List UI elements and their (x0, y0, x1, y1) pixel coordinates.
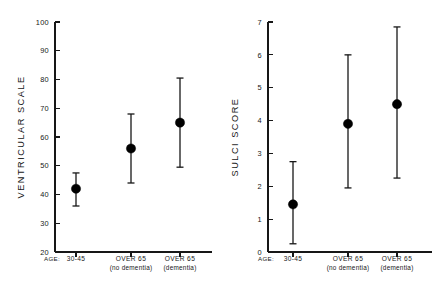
x-axis-category-sublabel: (no dementia) (110, 264, 153, 272)
y-axis-tick-label: 3 (258, 149, 262, 158)
data-point-marker (175, 118, 184, 127)
panel-sulci-score: 01234567SULCI SCOREAGE:30-45OVER 65(no d… (220, 0, 440, 291)
x-axis-age-prefix-label: AGE: (44, 255, 60, 262)
figure-container: 2030405060708090100VENTRICULAR SCALEAGE:… (0, 0, 441, 291)
y-axis-tick-label: 2 (258, 182, 262, 191)
x-axis-category-label: OVER 65 (165, 255, 195, 262)
y-axis-tick-label: 6 (258, 51, 262, 60)
y-axis-title: SULCI SCORE (230, 98, 240, 177)
y-axis-tick-label: 5 (258, 83, 262, 92)
y-axis-tick-label: 40 (40, 190, 49, 199)
sulci-score-plot: 01234567SULCI SCOREAGE:30-45OVER 65(no d… (220, 0, 441, 291)
panel-ventricular-scale: 2030405060708090100VENTRICULAR SCALEAGE:… (0, 0, 220, 291)
y-axis-title: VENTRICULAR SCALE (16, 75, 26, 198)
x-axis-category-label: OVER 65 (333, 255, 363, 262)
y-axis-tick-label: 4 (258, 116, 262, 125)
x-axis-category-sublabel: (no dementia) (327, 264, 370, 272)
x-axis-category-label: OVER 65 (382, 255, 412, 262)
x-axis-category-label: 30-45 (284, 255, 303, 262)
data-point-marker (392, 100, 401, 109)
ventricular-scale-plot: 2030405060708090100VENTRICULAR SCALEAGE:… (0, 0, 220, 291)
x-axis-age-prefix-label: AGE: (258, 255, 274, 262)
data-point-marker (288, 200, 297, 209)
data-point-marker (71, 184, 80, 193)
y-axis-tick-label: 70 (40, 104, 49, 113)
y-axis-tick-label: 1 (258, 215, 262, 224)
y-axis-tick-label: 50 (40, 161, 49, 170)
y-axis-tick-label: 7 (258, 18, 262, 27)
y-axis-tick-label: 80 (40, 75, 49, 84)
y-axis-tick-label: 60 (40, 133, 49, 142)
x-axis-category-sublabel: (dementia) (163, 264, 196, 272)
y-axis-tick-label: 30 (40, 219, 49, 228)
y-axis-tick-label: 90 (40, 46, 49, 55)
data-point-marker (343, 119, 352, 128)
x-axis-category-label: 30-45 (67, 255, 86, 262)
x-axis-category-sublabel: (dementia) (380, 264, 413, 272)
y-axis-tick-label: 100 (36, 18, 49, 27)
x-axis-category-label: OVER 65 (116, 255, 146, 262)
data-point-marker (126, 144, 135, 153)
